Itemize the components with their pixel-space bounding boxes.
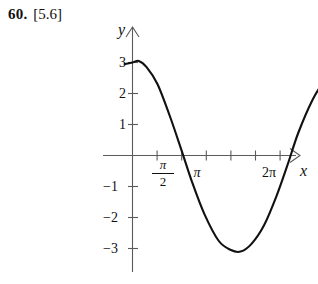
- graph-figure: y x 3 2 1 −1 −2 −3 π 2 π 2π: [0, 0, 318, 284]
- x-tick-label-pi: π: [188, 166, 206, 180]
- x-tick-label-2pi: 2π: [256, 166, 282, 180]
- pi-over-2-denominator: 2: [152, 174, 174, 189]
- y-tick-label-2: 2: [104, 87, 126, 101]
- y-tick-label-minus-3: −3: [96, 242, 118, 256]
- plot-canvas: [0, 0, 318, 284]
- pi-over-2-numerator: π: [152, 158, 174, 174]
- y-tick-label-minus-1: −1: [96, 180, 118, 194]
- function-curve: [125, 61, 318, 252]
- y-tick-label-minus-2: −2: [96, 211, 118, 225]
- y-tick-label-3: 3: [104, 56, 126, 70]
- y-axis-label: y: [118, 22, 125, 38]
- x-tick-label-pi-over-2: π 2: [152, 158, 174, 188]
- x-axis-label: x: [300, 163, 307, 179]
- y-tick-label-1: 1: [104, 118, 126, 132]
